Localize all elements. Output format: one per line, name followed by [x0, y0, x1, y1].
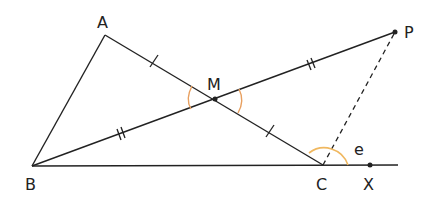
angle-label-e: e	[354, 140, 364, 159]
point-M	[213, 97, 218, 102]
label-A: A	[97, 13, 108, 32]
segment-AB	[32, 35, 105, 166]
angle-arc-ACX	[309, 148, 348, 165]
diagram-canvas: A B M P C X e	[0, 0, 440, 208]
point-P	[393, 30, 398, 35]
angle-arc-AMB	[188, 86, 192, 109]
double-tick-MP	[307, 58, 315, 70]
label-P: P	[404, 23, 414, 42]
label-C: C	[316, 175, 327, 194]
line-BX	[32, 165, 398, 166]
geometry-diagram: A B M P C X e	[0, 0, 440, 208]
label-X: X	[363, 175, 374, 194]
label-M: M	[207, 75, 221, 94]
point-X	[368, 163, 373, 168]
angle-arc-PMC	[238, 89, 242, 113]
label-B: B	[25, 175, 36, 194]
